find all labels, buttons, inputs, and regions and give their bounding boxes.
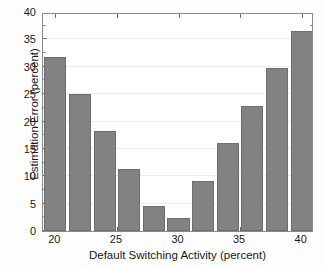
y-tick-mark [43,38,47,39]
bar [192,181,214,231]
x-tick-mark [179,14,180,18]
y-tick-label: 10 [0,171,36,182]
y-tick-mark-minor [43,25,46,26]
x-tick-mark [117,14,118,18]
y-tick-label: 35 [0,34,36,45]
y-tick-mark-minor [310,25,313,26]
y-tick-mark-minor [43,52,46,53]
bar [44,57,66,231]
bar [118,169,140,231]
y-tick-label: 0 [0,226,36,237]
bar [241,106,263,231]
x-tick-mark [55,14,56,18]
x-tick-label: 25 [96,234,136,245]
y-tick-label: 20 [0,117,36,128]
y-tick-label: 30 [0,62,36,73]
y-tick-label: 25 [0,89,36,100]
bar [143,206,165,231]
bar [266,68,288,231]
x-tick-label: 35 [219,234,259,245]
gridline [43,66,312,67]
gridline [43,38,312,39]
bar [69,94,91,231]
x-tick-mark [302,14,303,18]
x-tick-label: 30 [158,234,198,245]
y-tick-label: 15 [0,144,36,155]
x-tick-mark [240,14,241,18]
x-tick-label: 40 [281,234,321,245]
x-axis-title: Default Switching Activity (percent) [42,249,313,261]
y-tick-label: 5 [0,199,36,210]
bar [94,131,116,231]
bar [217,143,239,231]
bar [167,218,189,231]
y-tick-label: 40 [0,7,36,18]
x-tick-label: 20 [34,234,74,245]
plot-area [42,13,313,232]
bar-chart-figure: Estimation Error (percent) 0510152025303… [0,0,325,269]
bar [291,31,313,231]
